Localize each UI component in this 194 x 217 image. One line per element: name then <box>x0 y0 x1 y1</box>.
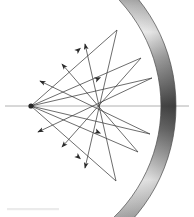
point-source-dot <box>28 103 33 108</box>
incident-ray-6 <box>31 106 116 181</box>
incident-ray-2 <box>31 58 141 106</box>
ray-diagram-svg <box>0 0 194 217</box>
optics-figure <box>0 0 194 217</box>
incident-ray-4 <box>31 106 150 134</box>
concave-mirror <box>90 0 176 217</box>
caption-smudge <box>7 208 59 210</box>
direction-arrow-up-right-1 <box>74 46 82 54</box>
incident-ray-5 <box>31 106 138 152</box>
direction-arrow-down-right-2 <box>74 153 82 161</box>
incident-ray-1 <box>31 30 117 106</box>
reflected-ray-6 <box>85 44 116 181</box>
reflected-ray-5 <box>62 64 138 152</box>
reflected-ray-1 <box>85 30 117 168</box>
reflected-ray-2 <box>62 58 141 147</box>
mirror-band-sheen <box>90 0 176 217</box>
incident-ray-3 <box>31 78 152 106</box>
direction-arrow-up-right-2 <box>94 75 102 82</box>
